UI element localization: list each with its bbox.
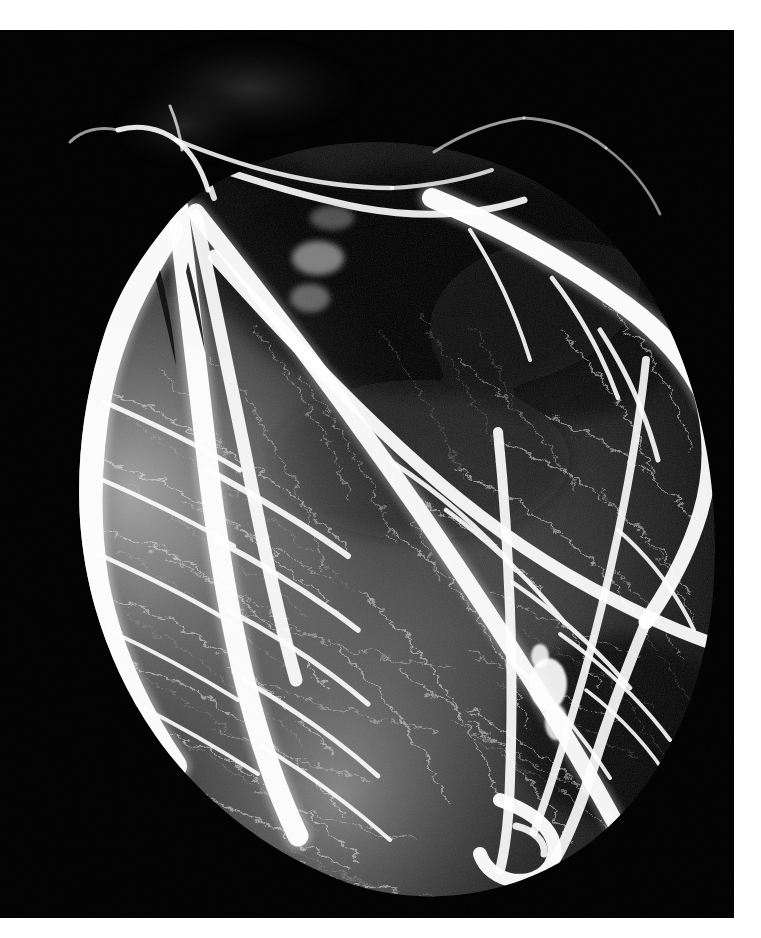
angiogram-image <box>0 30 734 918</box>
paper-margin-right <box>734 0 761 938</box>
film-grain-overlay <box>0 30 734 918</box>
radiograph-film <box>0 30 734 918</box>
page-root <box>0 0 761 938</box>
paper-margin-top <box>0 0 761 30</box>
paper-margin-bottom <box>0 918 761 938</box>
